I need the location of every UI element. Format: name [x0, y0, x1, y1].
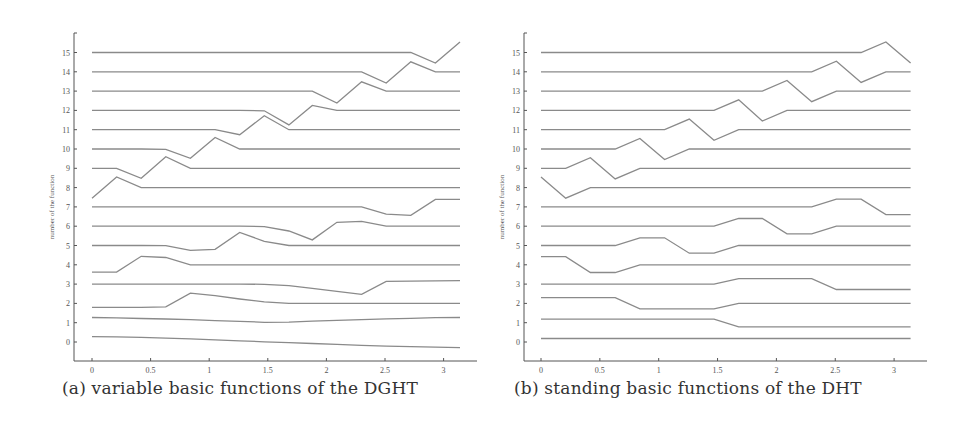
y-tick-label: 5	[516, 242, 520, 251]
basis-function-line-6	[92, 221, 460, 240]
y-tick-label: 7	[66, 203, 70, 212]
x-tick-label: 3	[892, 366, 896, 375]
chart-panel-b: 012345678910111213141500.511.522.53numbe…	[490, 0, 980, 424]
y-tick-label: 2	[66, 299, 70, 308]
y-axis-label: number of the function	[48, 174, 56, 239]
basis-function-line-9	[92, 157, 460, 179]
x-tick-label: 1	[657, 366, 661, 375]
basis-function-line-10	[541, 138, 911, 159]
x-tick-label: 0	[90, 366, 94, 375]
basis-function-line-8	[541, 177, 911, 198]
line-chart-b: 012345678910111213141500.511.522.53numbe…	[490, 0, 980, 424]
y-tick-label: 5	[66, 242, 70, 251]
y-tick-label: 8	[516, 184, 520, 193]
line-chart-a: 012345678910111213141500.511.522.53numbe…	[0, 0, 490, 424]
y-tick-label: 7	[516, 203, 520, 212]
y-tick-label: 2	[516, 299, 520, 308]
y-axis-label: number of the function	[498, 174, 506, 239]
y-tick-label: 11	[62, 126, 70, 135]
y-tick-label: 6	[516, 222, 520, 231]
basis-function-line-6	[541, 219, 911, 234]
y-tick-label: 15	[512, 49, 520, 58]
x-tick-label: 2	[774, 366, 778, 375]
basis-function-line-2	[541, 298, 911, 309]
caption-b: (b) standing basic functions of the DHT	[514, 378, 862, 398]
x-tick-label: 2.5	[830, 366, 840, 375]
y-tick-label: 14	[512, 68, 520, 77]
basis-function-line-8	[92, 177, 460, 198]
y-tick-label: 15	[62, 49, 70, 58]
basis-function-line-13	[541, 81, 911, 102]
basis-function-line-4	[541, 257, 911, 273]
basis-function-line-11	[92, 116, 460, 135]
basis-function-line-1	[541, 319, 911, 327]
y-tick-label: 1	[516, 319, 520, 328]
y-tick-label: 6	[66, 222, 70, 231]
y-tick-label: 4	[66, 261, 70, 270]
y-tick-label: 0	[516, 338, 520, 347]
basis-function-line-3	[92, 281, 460, 295]
chart-panel-a: 012345678910111213141500.511.522.53numbe…	[0, 0, 490, 424]
x-tick-label: 2.5	[380, 366, 390, 375]
x-tick-label: 2	[324, 366, 328, 375]
y-tick-label: 13	[512, 87, 520, 96]
y-tick-label: 3	[516, 280, 520, 289]
basis-function-line-11	[541, 119, 911, 140]
basis-function-line-15	[92, 42, 460, 63]
y-tick-label: 10	[512, 145, 520, 154]
basis-function-line-4	[92, 256, 460, 272]
caption-a: (a) variable basic functions of the DGHT	[62, 378, 418, 398]
basis-function-line-0	[92, 337, 460, 348]
y-tick-label: 12	[512, 106, 520, 115]
x-tick-label: 1.5	[263, 366, 273, 375]
y-tick-label: 9	[66, 164, 70, 173]
x-tick-label: 1	[207, 366, 211, 375]
basis-function-line-1	[92, 318, 460, 323]
y-tick-label: 12	[62, 106, 70, 115]
x-tick-label: 0	[539, 366, 543, 375]
y-tick-label: 0	[66, 338, 70, 347]
y-tick-label: 8	[66, 184, 70, 193]
y-tick-label: 11	[512, 126, 520, 135]
basis-function-line-5	[541, 238, 911, 253]
basis-function-line-12	[541, 100, 911, 121]
x-tick-label: 0.5	[595, 366, 605, 375]
x-tick-label: 1.5	[713, 366, 723, 375]
basis-function-line-2	[92, 293, 460, 307]
y-tick-label: 14	[62, 68, 70, 77]
basis-function-line-10	[92, 137, 460, 158]
basis-function-line-9	[541, 158, 911, 179]
y-tick-label: 10	[62, 145, 70, 154]
basis-function-line-13	[92, 82, 460, 103]
basis-function-line-5	[92, 232, 460, 250]
basis-function-line-3	[541, 279, 911, 290]
basis-function-line-14	[541, 61, 911, 82]
x-tick-label: 0.5	[146, 366, 156, 375]
y-tick-label: 9	[516, 164, 520, 173]
y-tick-label: 4	[516, 261, 520, 270]
x-tick-label: 3	[442, 366, 446, 375]
basis-function-line-14	[92, 62, 460, 83]
y-tick-label: 13	[62, 87, 70, 96]
basis-function-line-7	[541, 199, 911, 214]
basis-function-line-15	[541, 42, 911, 63]
y-tick-label: 3	[66, 280, 70, 289]
y-tick-label: 1	[66, 319, 70, 328]
basis-function-line-7	[92, 199, 460, 215]
